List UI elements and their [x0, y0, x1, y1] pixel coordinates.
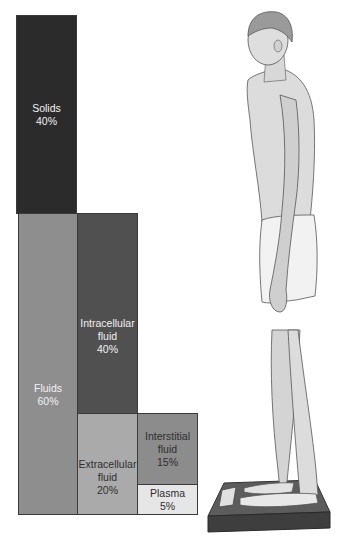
solids-label: Solids — [32, 102, 61, 115]
person-on-scale-illustration — [200, 0, 351, 542]
intracellular-percent: 40% — [97, 343, 118, 356]
plasma-box: Plasma 5% — [137, 484, 198, 515]
interstitial-label-2: fluid — [158, 443, 177, 456]
extracellular-label: Extracellular — [79, 458, 137, 471]
extracellular-label-2: fluid — [98, 471, 117, 484]
intracellular-label: Intracellular — [80, 317, 134, 330]
fluids-box: Fluids 60% — [18, 213, 78, 515]
plasma-label: Plasma — [150, 487, 185, 500]
fluids-label: Fluids — [34, 382, 62, 395]
interstitial-fluid-box: Interstitial fluid 15% — [137, 413, 198, 485]
solids-box: Solids 40% — [16, 15, 77, 214]
plasma-percent: 5% — [160, 500, 175, 513]
intracellular-label-2: fluid — [98, 330, 117, 343]
fluids-percent: 60% — [37, 395, 58, 408]
interstitial-percent: 15% — [157, 456, 178, 469]
interstitial-label: Interstitial — [145, 430, 190, 443]
solids-percent: 40% — [36, 115, 57, 128]
extracellular-percent: 20% — [97, 484, 118, 497]
extracellular-fluid-box: Extracellular fluid 20% — [77, 413, 138, 515]
intracellular-fluid-box: Intracellular fluid 40% — [77, 213, 138, 414]
